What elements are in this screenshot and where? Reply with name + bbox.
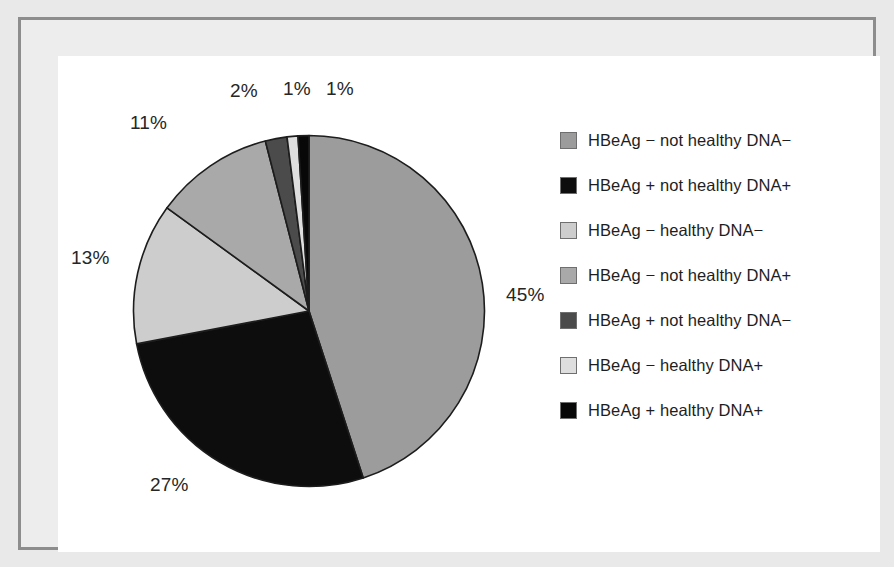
legend-swatch-icon <box>560 357 577 374</box>
legend-item: HBeAg + not healthy DNA+ <box>560 163 870 208</box>
legend-swatch-icon <box>560 222 577 239</box>
figure-root: 45% 27% 13% 11% 2% 1% 1% HBeAg − not hea… <box>0 0 894 567</box>
legend-item-label: HBeAg − healthy DNA+ <box>588 356 763 375</box>
figure-frame-border: 45% 27% 13% 11% 2% 1% 1% HBeAg − not hea… <box>18 17 876 550</box>
legend-swatch-icon <box>560 312 577 329</box>
slice-value-label-27: 27% <box>150 474 189 496</box>
slice-value-label-2: 2% <box>230 80 258 102</box>
legend-item: HBeAg − not healthy DNA− <box>560 118 870 163</box>
legend-item: HBeAg − not healthy DNA+ <box>560 253 870 298</box>
legend-swatch-icon <box>560 132 577 149</box>
slice-value-label-11: 11% <box>130 112 167 134</box>
legend-item: HBeAg − healthy DNA+ <box>560 343 870 388</box>
legend-swatch-icon <box>560 402 577 419</box>
slice-value-label-13: 13% <box>71 247 110 269</box>
slice-value-label-45: 45% <box>506 284 545 306</box>
chart-canvas: 45% 27% 13% 11% 2% 1% 1% HBeAg − not hea… <box>58 56 880 552</box>
legend-item-label: HBeAg + healthy DNA+ <box>588 401 763 420</box>
legend-item: HBeAg + not healthy DNA− <box>560 298 870 343</box>
slice-value-label-1-a: 1% <box>283 78 311 100</box>
legend-item: HBeAg − healthy DNA− <box>560 208 870 253</box>
legend-item-label: HBeAg − healthy DNA− <box>588 221 763 240</box>
legend-swatch-icon <box>560 177 577 194</box>
legend-item: HBeAg + healthy DNA+ <box>560 388 870 433</box>
chart-legend: HBeAg − not healthy DNA−HBeAg + not heal… <box>560 118 870 433</box>
legend-swatch-icon <box>560 267 577 284</box>
legend-item-label: HBeAg − not healthy DNA+ <box>588 266 791 285</box>
pie-chart-svg <box>131 133 487 489</box>
legend-item-label: HBeAg + not healthy DNA+ <box>588 176 791 195</box>
pie-slices-group <box>134 136 485 487</box>
slice-value-label-1-b: 1% <box>326 78 354 100</box>
legend-item-label: HBeAg + not healthy DNA− <box>588 311 791 330</box>
legend-item-label: HBeAg − not healthy DNA− <box>588 131 791 150</box>
